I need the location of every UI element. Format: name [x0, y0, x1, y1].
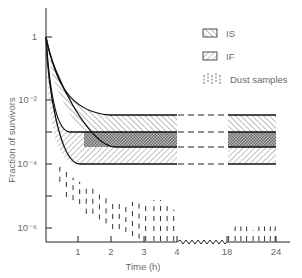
x-axis-break — [177, 240, 227, 244]
y-tick-label: 10⁻⁶ — [18, 222, 38, 233]
x-tick-label: 2 — [108, 246, 113, 257]
y-tick-label: 10⁻⁴ — [17, 158, 37, 169]
overlap-band-late — [228, 132, 276, 147]
y-tick-labels: 1 10⁻² 10⁻⁴ 10⁻⁶ — [17, 31, 37, 233]
legend-swatch-dust — [204, 73, 220, 85]
overlap-band — [84, 132, 177, 147]
x-tick-labels: 1 2 3 4 18 24 — [75, 246, 281, 257]
legend-swatch-is — [203, 29, 217, 37]
legend-label-is: IS — [226, 28, 235, 39]
x-tick-label: 4 — [174, 246, 179, 257]
survival-chart: 1 10⁻² 10⁻⁴ 10⁻⁶ 1 2 3 4 18 24 Time (h) … — [0, 0, 302, 278]
y-tick-label: 1 — [32, 31, 37, 42]
legend-swatch-if — [203, 52, 217, 60]
y-tick-label: 10⁻² — [18, 94, 37, 105]
legend-label-if: IF — [226, 51, 235, 62]
dust-samples — [60, 165, 275, 241]
x-tick-label: 24 — [271, 246, 282, 257]
x-tick-label: 18 — [222, 246, 233, 257]
legend-label-dust: Dust samples — [230, 74, 288, 85]
x-axis-label: Time (h) — [125, 261, 160, 272]
legend: IS IF Dust samples — [203, 28, 288, 85]
x-tick-label: 3 — [141, 246, 146, 257]
y-axis-label: Fraction of survivors — [6, 97, 17, 183]
x-tick-label: 1 — [75, 246, 80, 257]
